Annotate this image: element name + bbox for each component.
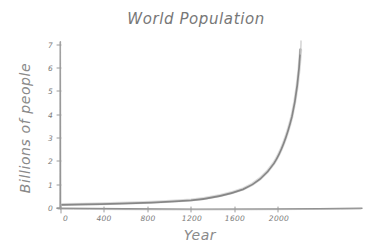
y-tick-label: 5 <box>48 87 53 96</box>
chart-canvas: World Population 7 6 5 4 3 <box>0 0 373 251</box>
y-tick-label: 7 <box>48 41 53 50</box>
population-curve-shadow <box>62 50 301 205</box>
world-population-chart: World Population 7 6 5 4 3 <box>0 0 373 251</box>
chart-title: World Population <box>127 10 265 28</box>
x-tick-label: 400 <box>96 214 111 223</box>
y-tick-label: 0 <box>48 204 53 213</box>
y-tick-label: 1 <box>48 181 53 190</box>
x-tick-label: 0 <box>63 214 68 223</box>
x-axis-line <box>57 208 362 209</box>
x-tick-label: 1600 <box>225 214 245 223</box>
y-tick-label: 3 <box>48 134 53 143</box>
population-curve <box>62 49 300 205</box>
y-tick-label: 2 <box>48 157 53 166</box>
population-curve-group <box>62 41 301 205</box>
x-axis-title: Year <box>184 227 217 243</box>
y-tick-label: 4 <box>48 111 53 120</box>
y-tick-label: 6 <box>48 64 53 73</box>
population-curve-tip <box>300 41 301 54</box>
x-tick-label: 800 <box>140 214 155 223</box>
x-tick-label: 2000 <box>269 214 289 223</box>
x-tick-label: 1200 <box>182 214 202 223</box>
x-tick-labels: 0 400 800 1200 1600 2000 <box>63 214 289 223</box>
y-axis-title: Billions of people <box>17 63 33 194</box>
axes-group <box>57 42 362 210</box>
y-tick-labels: 7 6 5 4 3 2 1 0 <box>48 41 53 213</box>
